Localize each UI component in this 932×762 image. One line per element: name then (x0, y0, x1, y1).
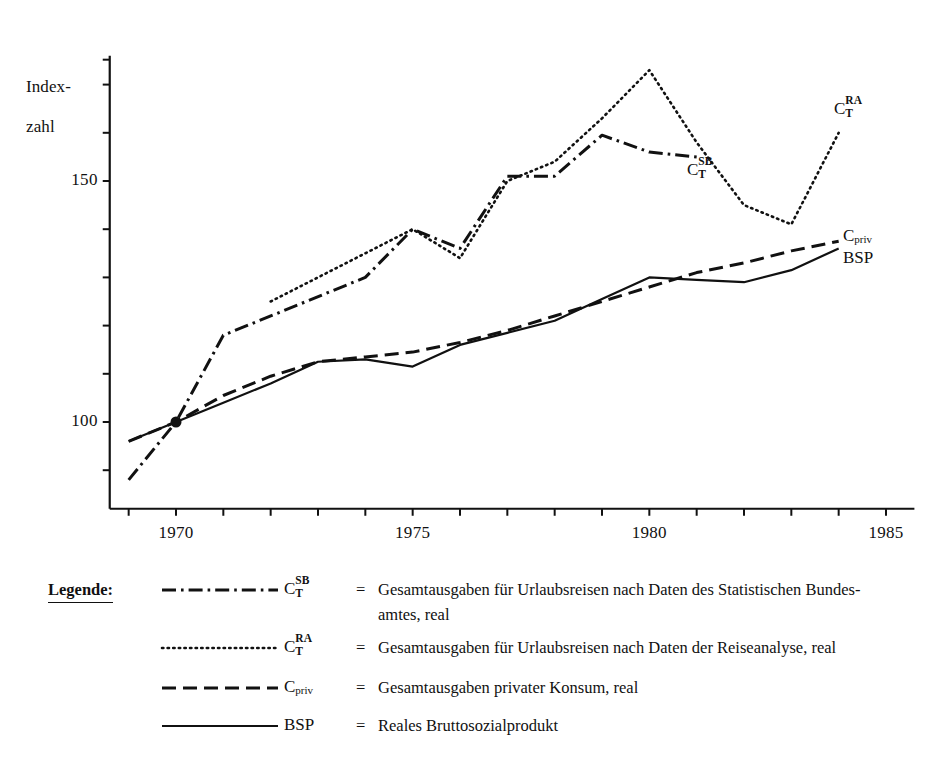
legend-key-symbol: Cpriv (284, 677, 295, 697)
legend: Legende: CSBT=Gesamtausgaben für Urlaubs… (0, 566, 932, 762)
x-tick-label: 1980 (604, 523, 694, 543)
plot-canvas (0, 0, 932, 560)
legend-equals-sign: = (356, 678, 365, 698)
index-base-marker (171, 417, 182, 428)
legend-key-base: BSP (284, 715, 314, 734)
ct-sb-base: C (687, 160, 698, 179)
legend-description: Gesamtausgaben privater Konsum, real (378, 678, 638, 698)
series-annotation-ct-ra: CRAT (834, 100, 845, 117)
c-priv-sub: priv (854, 234, 872, 245)
ct-ra-base: C (834, 99, 845, 118)
legend-key-base: C (284, 579, 295, 598)
legend-line-sample (160, 716, 280, 734)
series-line-c-priv (129, 241, 839, 441)
bsp-label: BSP (843, 248, 873, 267)
line-chart: Index- zahl 100150 1970197519801985 CRAT… (0, 0, 932, 560)
legend-line-sample (160, 678, 280, 696)
series-line-c-t-ra (271, 70, 839, 301)
legend-description: Gesamtausgaben für Urlaubsreisen nach Da… (378, 638, 836, 658)
series-annotation-ct-sb: CSBT (687, 161, 698, 178)
c-priv-base: C (843, 226, 854, 245)
x-tick-label: 1975 (368, 523, 458, 543)
y-tick-label: 100 (20, 411, 98, 431)
legend-key-symbol: BSP (284, 715, 314, 735)
legend-description-continued: amtes, real (378, 605, 449, 625)
legend-equals-sign: = (356, 638, 365, 658)
y-tick-label: 150 (20, 170, 98, 190)
x-tick-label: 1985 (841, 523, 931, 543)
legend-line-sample (160, 580, 280, 598)
legend-description: Gesamtausgaben für Urlaubsreisen nach Da… (378, 580, 861, 600)
legend-key-sub: T (295, 645, 303, 657)
y-axis-title-line2: zahl (26, 117, 96, 137)
legend-key-sup: RA (295, 632, 312, 644)
legend-equals-sign: = (356, 580, 365, 600)
series-line-c-t-sb (129, 135, 697, 480)
legend-equals-sign: = (356, 716, 365, 736)
x-tick-label: 1970 (131, 523, 221, 543)
legend-description: Reales Bruttosozialprodukt (378, 716, 558, 736)
legend-line-sample (160, 638, 280, 656)
ct-ra-sup: RA (845, 95, 862, 107)
series-annotation-c-priv: Cpriv (843, 227, 854, 244)
legend-key-symbol: CRAT (284, 637, 295, 657)
legend-key-base: C (284, 637, 295, 656)
legend-key-sub: priv (295, 684, 313, 696)
axes (103, 56, 915, 516)
y-axis-title-line1: Index- (26, 77, 96, 97)
series-line-bsp (129, 248, 839, 441)
ct-ra-sub: T (845, 108, 853, 120)
legend-key-base: C (284, 677, 295, 696)
y-axis-title: Index- zahl (26, 57, 96, 157)
series-annotation-bsp: BSP (843, 249, 873, 266)
legend-key-sub: T (295, 587, 303, 599)
ct-sb-sub: T (698, 169, 706, 181)
legend-key-sup: SB (295, 574, 309, 586)
series-lines (129, 70, 839, 480)
legend-title: Legende: (48, 580, 113, 603)
ct-sb-sup: SB (698, 156, 712, 168)
legend-key-symbol: CSBT (284, 579, 295, 599)
chart-page: Index- zahl 100150 1970197519801985 CRAT… (0, 0, 932, 762)
